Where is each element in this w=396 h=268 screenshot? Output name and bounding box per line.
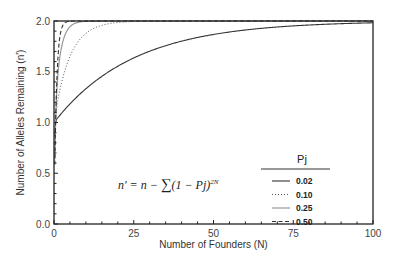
plot-frame <box>54 21 373 224</box>
formula-body: (1 − Pj) <box>171 178 210 192</box>
formula-sum: ∑ <box>161 176 172 192</box>
legend-title: Pj <box>297 153 307 165</box>
y-axis-label: Number of Alleles Remaining (n') <box>15 50 26 196</box>
plot-area <box>55 21 373 165</box>
chart: 02550751000.00.51.01.52.0Number of Found… <box>0 0 396 268</box>
x-tick-label: 50 <box>208 228 220 239</box>
x-tick-label: 75 <box>288 228 300 239</box>
formula-lhs: n' = n − <box>118 178 161 192</box>
y-tick-label: 0.5 <box>36 168 50 179</box>
y-tick-label: 1.5 <box>36 66 50 77</box>
series-line-0.02 <box>55 23 373 136</box>
axes: 02550751000.00.51.01.52.0Number of Found… <box>15 16 382 251</box>
legend-entry-0.02: 0.02 <box>296 176 313 186</box>
series-line-0.50 <box>55 21 373 165</box>
y-tick-label: 1.0 <box>36 117 50 128</box>
y-tick-label: 2.0 <box>36 16 50 27</box>
x-axis-label: Number of Founders (N) <box>159 239 267 250</box>
formula-annotation: n' = n − ∑(1 − Pj)2N <box>118 176 218 193</box>
series-line-0.10 <box>55 21 373 149</box>
series-line-0.25 <box>55 21 373 160</box>
legend-entry-0.50: 0.50 <box>296 217 313 227</box>
formula-exponent: 2N <box>210 178 218 186</box>
y-tick-label: 0.0 <box>36 219 50 230</box>
x-tick-label: 100 <box>365 228 382 239</box>
legend-entry-0.10: 0.10 <box>296 190 313 200</box>
legend-entry-0.25: 0.25 <box>296 203 313 213</box>
legend: Pj0.020.100.250.50 <box>261 153 330 227</box>
x-tick-label: 0 <box>51 228 57 239</box>
x-tick-label: 25 <box>128 228 140 239</box>
